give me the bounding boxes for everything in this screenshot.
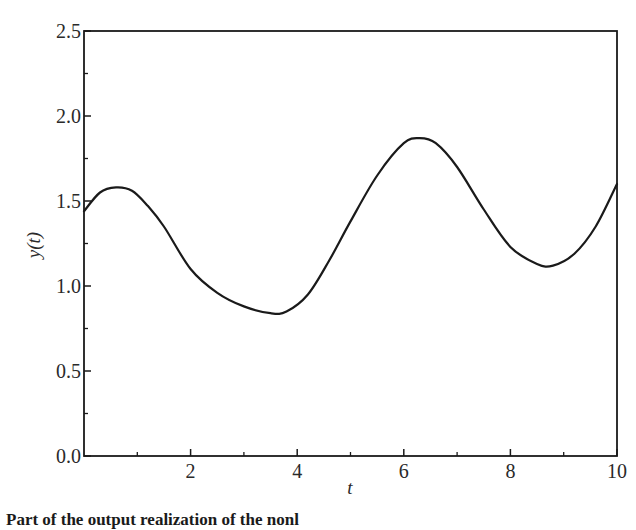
x-tick-label: 4 — [292, 460, 302, 482]
x-tick-label: 8 — [505, 460, 515, 482]
x-axis-label: t — [347, 477, 353, 498]
x-axis: 246810 — [137, 449, 627, 482]
x-tick-label: 6 — [399, 460, 409, 482]
figure-caption: Part of the output realization of the no… — [6, 510, 299, 530]
x-tick-label: 10 — [607, 460, 627, 482]
y-tick-label: 1.5 — [56, 190, 81, 212]
x-tick-label: 2 — [186, 460, 196, 482]
y-tick-label: 2.0 — [56, 105, 81, 127]
y-tick-label: 0.0 — [56, 445, 81, 467]
y-axis-label: y(t) — [23, 232, 45, 260]
plot-frame — [84, 31, 617, 456]
plot-border — [84, 31, 617, 456]
y-tick-label: 2.5 — [56, 20, 81, 42]
y-tick-label: 0.5 — [56, 360, 81, 382]
y-tick-label: 1.0 — [56, 275, 81, 297]
y-axis: 0.00.51.01.52.02.5 — [56, 20, 91, 467]
data-line — [84, 138, 617, 314]
